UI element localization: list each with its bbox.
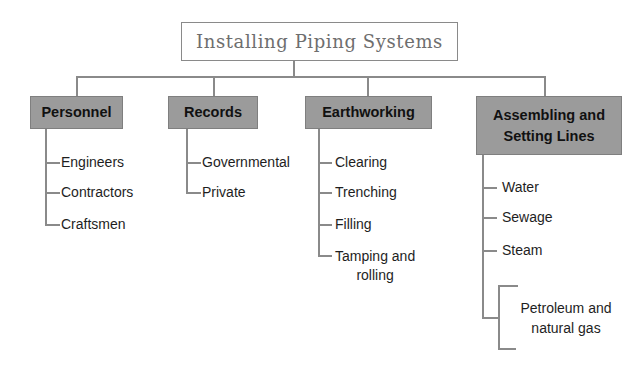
category-earthworking: Earthworking bbox=[305, 96, 432, 129]
petroleum-bracket-vertical bbox=[498, 285, 500, 349]
category-assembling-label-line1: Assembling and bbox=[493, 107, 605, 123]
item-private: Private bbox=[202, 184, 246, 201]
assembling-tick-petroleum bbox=[482, 317, 498, 319]
item-craftsmen: Craftsmen bbox=[61, 216, 126, 233]
earthworking-tick-tamping bbox=[318, 255, 332, 257]
records-drop-connector bbox=[213, 76, 215, 96]
personnel-tick-contractors bbox=[45, 192, 60, 194]
earthworking-tick-filling bbox=[318, 224, 332, 226]
item-steam: Steam bbox=[502, 242, 542, 259]
item-petroleum-and-natural-gas: Petroleum and natural gas bbox=[511, 298, 621, 338]
records-tick-governmental bbox=[186, 162, 201, 164]
item-petroleum-line1: Petroleum and bbox=[520, 300, 611, 316]
category-personnel: Personnel bbox=[30, 96, 123, 129]
item-trenching: Trenching bbox=[335, 184, 397, 201]
records-vertical-connector bbox=[186, 129, 188, 193]
item-tamping-line1: Tamping and bbox=[335, 248, 415, 264]
item-tamping-line2: rolling bbox=[356, 267, 393, 283]
item-governmental: Governmental bbox=[202, 154, 290, 171]
item-engineers: Engineers bbox=[61, 154, 124, 171]
petroleum-bracket-top bbox=[498, 285, 518, 287]
earthworking-tick-trenching bbox=[318, 192, 332, 194]
category-records-label: Records bbox=[184, 102, 242, 123]
item-contractors: Contractors bbox=[61, 184, 133, 201]
root-title-text: Installing Piping Systems bbox=[196, 31, 443, 52]
earthworking-tick-clearing bbox=[318, 162, 332, 164]
category-personnel-label: Personnel bbox=[41, 102, 111, 123]
main-horizontal-connector bbox=[76, 76, 545, 78]
category-assembling-setting-lines: Assembling and Setting Lines bbox=[476, 96, 622, 155]
category-assembling-label-line2: Setting Lines bbox=[503, 128, 594, 144]
personnel-tick-engineers bbox=[45, 162, 60, 164]
personnel-drop-connector bbox=[76, 76, 78, 96]
item-petroleum-line2: natural gas bbox=[531, 320, 600, 336]
personnel-vertical-connector bbox=[45, 129, 47, 225]
assembling-vertical-connector bbox=[482, 155, 484, 318]
root-stem-connector bbox=[293, 61, 295, 77]
assembling-tick-steam bbox=[482, 250, 497, 252]
item-clearing: Clearing bbox=[335, 154, 387, 171]
assembling-drop-connector bbox=[544, 76, 546, 96]
category-assembling-label: Assembling and Setting Lines bbox=[493, 105, 605, 147]
item-filling: Filling bbox=[335, 216, 372, 233]
earthworking-drop-connector bbox=[367, 76, 369, 96]
item-water: Water bbox=[502, 179, 539, 196]
assembling-tick-water bbox=[482, 187, 497, 189]
item-tamping-and-rolling: Tamping and rolling bbox=[335, 247, 415, 285]
root-node-title: Installing Piping Systems bbox=[181, 22, 458, 61]
category-records: Records bbox=[168, 96, 258, 129]
records-tick-private bbox=[186, 192, 201, 194]
personnel-tick-craftsmen bbox=[45, 224, 60, 226]
petroleum-bracket-bottom bbox=[498, 348, 516, 350]
assembling-tick-sewage bbox=[482, 217, 497, 219]
category-earthworking-label: Earthworking bbox=[322, 102, 415, 123]
item-sewage: Sewage bbox=[502, 209, 553, 226]
